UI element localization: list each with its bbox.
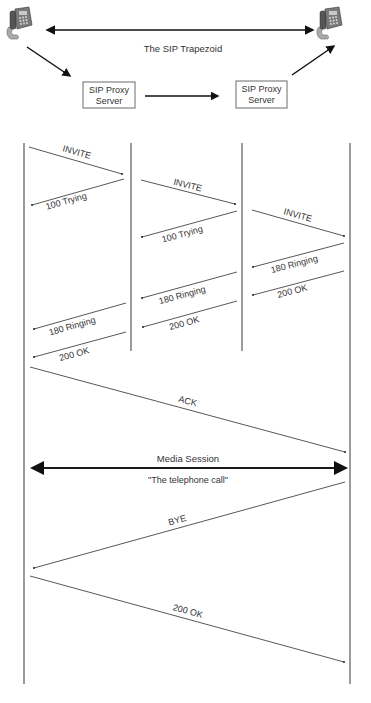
- svg-text:Server: Server: [96, 96, 123, 106]
- svg-text:Media Session: Media Session: [157, 453, 219, 464]
- media-session: Media Session "The telephone call": [30, 453, 348, 485]
- message-200-ok-2: 200 OK: [143, 301, 237, 332]
- proxy-server-1: SIP Proxy Server: [83, 82, 135, 108]
- message-100-trying-2: 100 Trying: [142, 211, 237, 244]
- svg-text:Server: Server: [248, 95, 275, 105]
- svg-text:BYE: BYE: [167, 513, 187, 527]
- svg-text:ACK: ACK: [178, 394, 198, 408]
- message-200-ok-3: 200 OK: [253, 271, 344, 300]
- message-180-ringing-3: 180 Ringing: [253, 243, 344, 275]
- svg-text:SIP Proxy: SIP Proxy: [242, 84, 282, 94]
- trapezoid-title: The SIP Trapezoid: [144, 43, 223, 54]
- svg-text:SIP Proxy: SIP Proxy: [89, 85, 129, 95]
- sip-trapezoid: The SIP Trapezoid SIP Proxy Server SIP P…: [7, 7, 342, 108]
- message-ack: ACK: [30, 367, 345, 452]
- sequence-diagram: INVITE 100 Trying INVITE 100 Trying INVI…: [24, 143, 350, 684]
- svg-text:INVITE: INVITE: [172, 177, 203, 194]
- svg-text:INVITE: INVITE: [282, 206, 313, 224]
- message-100-trying-1: 100 Trying: [32, 179, 124, 212]
- svg-text:INVITE: INVITE: [62, 143, 93, 161]
- message-invite-1: INVITE: [29, 143, 122, 174]
- svg-text:100 Trying: 100 Trying: [161, 224, 204, 245]
- arrowhead-right-icon: [334, 461, 348, 475]
- message-invite-3: INVITE: [252, 206, 344, 236]
- message-invite-2: INVITE: [141, 177, 235, 204]
- proxy-server-2: SIP Proxy Server: [236, 81, 287, 108]
- svg-text:200 OK: 200 OK: [276, 282, 308, 299]
- svg-text:200 OK: 200 OK: [168, 314, 200, 332]
- svg-text:100 Trying: 100 Trying: [45, 191, 88, 212]
- phone-icon-left: [7, 7, 32, 39]
- svg-text:"The telephone call": "The telephone call": [148, 475, 228, 485]
- svg-text:200 OK: 200 OK: [172, 602, 204, 620]
- edge-proxy2-to-phone: [292, 46, 334, 75]
- svg-text:200 OK: 200 OK: [58, 345, 90, 363]
- message-180-ringing-1: 180 Ringing: [34, 303, 126, 337]
- message-180-ringing-2: 180 Ringing: [142, 272, 237, 306]
- sip-call-flow-diagram: The SIP Trapezoid SIP Proxy Server SIP P…: [0, 0, 371, 703]
- edge-phone-to-proxy1: [27, 47, 70, 76]
- message-200-ok-1: 200 OK: [34, 332, 126, 363]
- arrowhead-left-icon: [30, 461, 44, 475]
- message-200-ok-final: 200 OK: [30, 576, 344, 662]
- phone-icon-right: [317, 7, 342, 39]
- message-bye: BYE: [34, 482, 345, 568]
